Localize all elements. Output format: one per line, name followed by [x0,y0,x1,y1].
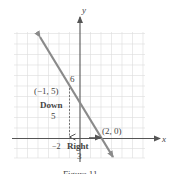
line-graph: x y 6 (−1, 5) Down 5 (2, 0) −2 Right 3 F… [0,0,171,174]
point-label-1: (−1, 5) [34,86,59,96]
y-tick-label: 6 [70,74,75,84]
down-value: 5 [51,111,56,121]
x-tick-label: −2 [52,142,61,151]
down-label: Down [40,100,63,110]
right-label: Right [67,141,89,151]
figure-caption: Figure 11 [63,169,97,174]
x-axis-label: x [161,134,166,144]
right-value: 3 [77,151,82,161]
point-label-2: (2, 0) [102,126,122,136]
y-axis-label: y [81,5,86,15]
